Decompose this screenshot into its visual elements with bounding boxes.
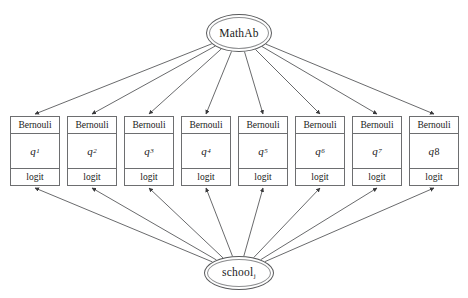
parameter-index: 2 <box>93 147 97 155</box>
latent-node-school-subscript: j <box>253 272 256 280</box>
link-function-label: logit <box>353 168 401 185</box>
edge-school-to-indicator <box>261 188 377 260</box>
latent-node-mathab-label: MathAb <box>219 27 259 39</box>
edge-school-to-indicator <box>149 188 223 258</box>
parameter-index: 8 <box>434 146 440 157</box>
indicator-box[interactable]: Bernouliq7logit <box>352 116 402 186</box>
edge-mathab-to-indicator <box>35 44 212 114</box>
diagram-canvas: MathAb schoolj Bernouliq1logitBernouliq2… <box>0 0 468 298</box>
parameter-label: q2 <box>68 134 116 168</box>
edge-school-to-indicator <box>244 188 263 256</box>
distribution-label: Bernouli <box>125 117 173 134</box>
parameter-index: 5 <box>264 147 268 155</box>
distribution-label: Bernouli <box>68 117 116 134</box>
distribution-label: Bernouli <box>353 117 401 134</box>
link-function-label: logit <box>410 168 458 185</box>
parameter-label: q6 <box>296 134 344 168</box>
indicator-box[interactable]: Bernouliq5logit <box>238 116 288 186</box>
edge-mathab-to-indicator <box>262 47 377 114</box>
edges-from-school <box>35 188 434 262</box>
link-function-label: logit <box>296 168 344 185</box>
distribution-label: Bernouli <box>11 117 59 134</box>
distribution-label: Bernouli <box>182 117 230 134</box>
link-function-label: logit <box>182 168 230 185</box>
parameter-label: q8 <box>410 134 458 168</box>
edges-from-mathab <box>35 44 434 114</box>
parameter-index: 7 <box>378 147 382 155</box>
parameter-label: q3 <box>125 134 173 168</box>
parameter-index: 3 <box>150 147 154 155</box>
edge-mathab-to-indicator <box>245 52 264 114</box>
latent-node-mathab[interactable]: MathAb <box>206 14 272 52</box>
edge-mathab-to-indicator <box>92 46 215 114</box>
indicator-box[interactable]: Bernouliq8logit <box>409 116 459 186</box>
parameter-index: 6 <box>321 147 325 155</box>
link-function-label: logit <box>11 168 59 185</box>
link-function-label: logit <box>125 168 173 185</box>
edge-school-to-indicator <box>254 188 320 258</box>
distribution-label: Bernouli <box>410 117 458 134</box>
parameter-label: q1 <box>11 134 59 168</box>
link-function-label: logit <box>68 168 116 185</box>
latent-node-school-text: school <box>222 266 253 278</box>
indicator-box[interactable]: Bernouliq4logit <box>181 116 231 186</box>
latent-node-school[interactable]: schoolj <box>204 256 274 290</box>
edge-school-to-indicator <box>35 188 212 262</box>
edge-school-to-indicator <box>92 188 217 260</box>
distribution-label: Bernouli <box>239 117 287 134</box>
indicator-box[interactable]: Bernouliq6logit <box>295 116 345 186</box>
parameter-index: 4 <box>207 147 211 155</box>
indicator-box[interactable]: Bernouliq3logit <box>124 116 174 186</box>
edge-mathab-to-indicator <box>206 52 232 115</box>
edge-mathab-to-indicator <box>266 44 434 114</box>
edge-school-to-indicator <box>265 188 434 262</box>
indicator-box[interactable]: Bernouliq1logit <box>10 116 60 186</box>
indicator-box[interactable]: Bernouliq2logit <box>67 116 117 186</box>
parameter-label: q5 <box>239 134 287 168</box>
link-function-label: logit <box>239 168 287 185</box>
parameter-label: q7 <box>353 134 401 168</box>
parameter-index: 1 <box>36 147 40 155</box>
latent-node-school-label: schoolj <box>222 266 256 280</box>
distribution-label: Bernouli <box>296 117 344 134</box>
edge-mathab-to-indicator <box>256 50 321 115</box>
parameter-label: q4 <box>182 134 230 168</box>
